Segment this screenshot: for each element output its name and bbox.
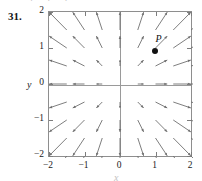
x-tick <box>120 152 121 156</box>
vector-field <box>49 12 193 158</box>
x-tick <box>191 12 192 16</box>
x-tick <box>85 152 86 156</box>
field-arrow-head <box>96 153 98 156</box>
field-arrow-shaft <box>96 156 102 158</box>
field-arrow-head <box>188 106 191 108</box>
point-p-label: P <box>156 33 162 44</box>
field-arrow-shaft <box>49 12 67 30</box>
field-arrow-head <box>164 83 167 86</box>
field-arrow-shaft <box>73 12 85 30</box>
x-tick <box>120 12 121 16</box>
field-arrow-shaft <box>191 156 193 158</box>
field-arrow-shaft <box>173 36 191 48</box>
field-arrow-shaft <box>191 60 193 66</box>
field-arrow-shaft <box>49 138 67 156</box>
field-arrow-shaft <box>49 36 67 48</box>
x-tick <box>85 12 86 16</box>
y-tick <box>187 48 191 49</box>
field-arrow-shaft <box>73 138 85 156</box>
field-arrow-shaft <box>138 156 144 158</box>
field-arrow-head <box>119 36 122 39</box>
field-arrow-shaft <box>191 102 193 108</box>
x-tick-label: 1 <box>147 160 163 170</box>
x-tick <box>156 12 157 16</box>
field-arrow-shaft <box>73 156 85 158</box>
field-arrow-head <box>119 106 121 108</box>
problem-number: 31. <box>8 10 22 22</box>
y-tick-label: 2 <box>28 5 44 15</box>
y-tick <box>49 84 53 85</box>
field-arrow-shaft <box>173 120 191 132</box>
x-tick <box>156 152 157 156</box>
x-tick <box>191 152 192 156</box>
field-arrow-head <box>141 153 143 156</box>
field-arrow-shaft <box>156 12 168 30</box>
field-arrow-head <box>141 12 143 15</box>
x-tick <box>49 152 50 156</box>
x-tick <box>49 12 50 16</box>
x-tick-label: −1 <box>76 160 92 170</box>
y-tick-label: 0 <box>28 77 44 87</box>
field-arrow-head <box>119 129 122 132</box>
y-tick <box>49 48 53 49</box>
y-tick-label: −1 <box>28 113 44 123</box>
y-tick <box>49 156 53 157</box>
field-arrow-head <box>96 12 98 15</box>
field-arrow-shaft <box>156 156 168 158</box>
field-arrow-shaft <box>173 12 191 30</box>
field-arrow-shaft <box>173 138 191 156</box>
field-arrow-head <box>188 60 191 62</box>
point-p-marker <box>152 48 158 54</box>
field-arrow-head <box>96 83 98 85</box>
plot-area <box>48 11 192 157</box>
field-arrow-shaft <box>49 120 67 132</box>
figure-container: · · · 31. y x 210−1−2 −2−1012 P <box>0 0 202 181</box>
field-arrow-shaft <box>191 120 193 132</box>
y-tick-label: 1 <box>28 41 44 51</box>
y-tick <box>187 156 191 157</box>
field-arrow-shaft <box>156 138 168 156</box>
field-arrow-head <box>119 60 121 62</box>
field-arrow-shaft <box>191 36 193 48</box>
y-tick-label: −2 <box>28 149 44 159</box>
field-arrow-head <box>49 106 52 108</box>
field-arrow-head <box>142 83 144 85</box>
cropped-header-text: · · · <box>30 0 150 5</box>
field-arrow-head <box>73 83 76 86</box>
y-tick <box>187 84 191 85</box>
x-axis-label: x <box>114 172 118 181</box>
x-tick-label: −2 <box>40 160 56 170</box>
y-tick <box>49 120 53 121</box>
field-arrow-head <box>49 60 52 62</box>
x-tick-label: 2 <box>182 160 198 170</box>
y-tick <box>187 120 191 121</box>
x-tick-label: 0 <box>111 160 127 170</box>
